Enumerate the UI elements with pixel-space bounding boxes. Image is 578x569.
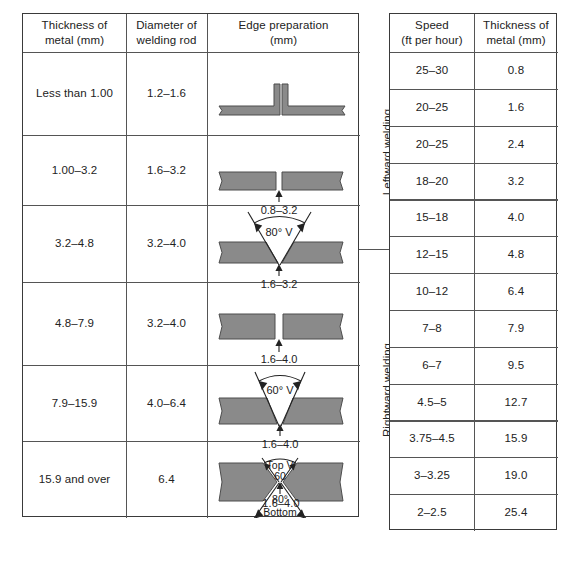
cell-thickness: 4.0 [474, 199, 558, 236]
table-row: 12–15 [390, 236, 474, 273]
table-row: 3.75–4.5 [390, 420, 474, 457]
dim-gap-row3: 1.6–3.2 [261, 278, 298, 290]
welding-speed-table: Speed (ft per hour) Thickness of metal (… [389, 13, 557, 530]
diagram-single-v-row3: 80° V 1.6–3.2 [219, 212, 343, 290]
cell-speed: 12–15 [416, 247, 448, 262]
cell-thickness: 15.9 and over [39, 472, 111, 487]
cell-rod-diameter: 6.4 [126, 441, 207, 518]
cell-rod-diameter: 1.6–3.2 [126, 135, 207, 205]
header-rod-line1: Diameter of [136, 18, 197, 33]
cell-thickness-value: 2.4 [508, 137, 524, 152]
table-row: 18–20 [390, 163, 474, 200]
table-row: Less than 1.00 [23, 52, 126, 135]
cell-thickness-value: 7.9 [508, 321, 524, 336]
angle-label-row5: 60° V [266, 384, 294, 396]
diagram-square-butt-row2: 0.8–3.2 [219, 172, 343, 216]
table-row: 3–3.25 [390, 457, 474, 494]
cell-thickness-value: 15.9 [505, 431, 528, 446]
cell-rod-diameter: 4.0–6.4 [126, 365, 207, 441]
cell-thickness: 2.4 [474, 126, 558, 163]
diagram-flanged-butt-joint [219, 84, 345, 115]
table-row: 15.9 and over [23, 441, 126, 518]
cell-speed: 18–20 [416, 174, 448, 189]
cell-speed: 3.75–4.5 [409, 431, 455, 446]
left-table-header-edge-preparation: Edge preparation (mm) [207, 14, 360, 52]
table-row: 15–18 [390, 199, 474, 236]
table-row: 4.8–7.9 [23, 282, 126, 365]
cell-thickness: 3.2–4.8 [55, 236, 94, 251]
right-table-header-thickness: Thickness of metal (mm) [474, 14, 558, 52]
cell-rod-diameter-value: 1.6–3.2 [147, 163, 186, 178]
cell-thickness: 19.0 [474, 457, 558, 494]
cell-thickness: 12.7 [474, 384, 558, 421]
cell-rod-diameter: 1.2–1.6 [126, 52, 207, 135]
cell-rod-diameter: 3.2–4.0 [126, 205, 207, 282]
cell-thickness-value: 3.2 [508, 174, 524, 189]
header-rthickness-line2: metal (mm) [486, 33, 545, 48]
cell-thickness-value: 1.6 [508, 100, 524, 115]
cell-speed: 20–25 [416, 137, 448, 152]
cell-thickness: 15.9 [474, 420, 558, 457]
dim-gap-row6: 1.6–4.0 [262, 496, 299, 510]
table-row: 3.2–4.8 [23, 205, 126, 282]
cell-rod-diameter-value: 1.2–1.6 [147, 86, 186, 101]
table-row: 7.9–15.9 [23, 365, 126, 441]
cell-thickness-value: 25.4 [505, 505, 528, 520]
table-row: 7–8 [390, 310, 474, 347]
angle-label-top-v-value: 60 [274, 470, 286, 482]
cell-rod-diameter-value: 4.0–6.4 [147, 396, 186, 411]
header-thickness-line1: Thickness of [42, 18, 108, 33]
cell-thickness: 3.2 [474, 163, 558, 200]
cell-thickness-value: 9.5 [508, 358, 524, 373]
edge-preparation-table: Thickness of metal (mm) Diameter of weld… [22, 13, 359, 517]
cell-rod-diameter: 3.2–4.0 [126, 282, 207, 365]
dim-gap-row5: 1.6–4.0 [262, 438, 299, 450]
header-rthickness-line1: Thickness of [483, 18, 549, 33]
cell-thickness: 9.5 [474, 347, 558, 384]
angle-label-top-v: Top V [267, 459, 294, 471]
cell-thickness: 1.00–3.2 [52, 163, 98, 178]
cell-thickness-value: 19.0 [505, 468, 528, 483]
header-speed-line2: (ft per hour) [401, 33, 462, 48]
cell-speed: 2–2.5 [417, 505, 446, 520]
table-row: 10–12 [390, 273, 474, 310]
cell-rod-diameter-value: 3.2–4.0 [147, 236, 186, 251]
header-rod-line2: welding rod [137, 33, 197, 48]
cell-speed: 7–8 [422, 321, 442, 336]
table-row: 25–30 [390, 52, 474, 89]
diagram-square-butt-row4: 1.6–4.0 [219, 314, 343, 365]
cell-thickness: 7.9–15.9 [52, 396, 98, 411]
cell-speed: 3–3.25 [414, 468, 450, 483]
table-row: 20–25 [390, 89, 474, 126]
cell-speed: 15–18 [416, 210, 448, 225]
cell-speed: 6–7 [422, 358, 442, 373]
cell-thickness-value: 0.8 [508, 63, 524, 78]
cell-thickness: Less than 1.00 [36, 86, 113, 101]
cell-thickness: 1.6 [474, 89, 558, 126]
right-table-header-speed: Speed (ft per hour) [390, 14, 474, 52]
cell-thickness: 4.8–7.9 [55, 316, 94, 331]
cell-thickness-value: 4.8 [508, 247, 524, 262]
left-table-column-divider-2 [207, 14, 208, 518]
header-edge-line1: Edge preparation [239, 18, 329, 33]
cell-speed: 20–25 [416, 100, 448, 115]
table-row: 20–25 [390, 126, 474, 163]
cell-thickness: 7.9 [474, 310, 558, 347]
cell-speed: 4.5–5 [417, 395, 446, 410]
header-speed-line1: Speed [415, 18, 449, 33]
angle-label-row3: 80° V [265, 226, 293, 238]
cell-thickness-value: 6.4 [508, 284, 524, 299]
table-row: 1.00–3.2 [23, 135, 126, 205]
cell-thickness: 25.4 [474, 494, 558, 531]
table-row: 4.5–5 [390, 384, 474, 421]
cell-rod-diameter-value: 6.4 [158, 472, 174, 487]
cell-thickness-value: 12.7 [505, 395, 528, 410]
header-edge-line2: (mm) [270, 33, 297, 48]
cell-thickness: 6.4 [474, 273, 558, 310]
cell-thickness-value: 4.0 [508, 210, 524, 225]
table-row: 2–2.5 [390, 494, 474, 531]
header-thickness-line2: metal (mm) [45, 33, 104, 48]
left-table-header-rod-diameter: Diameter of welding rod [126, 14, 207, 52]
welding-group-divider [359, 249, 389, 250]
table-row: 6–7 [390, 347, 474, 384]
